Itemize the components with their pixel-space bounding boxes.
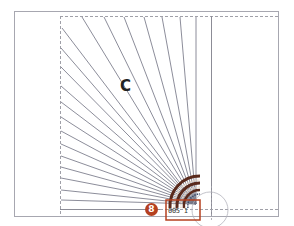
fan-diagram bbox=[0, 0, 294, 226]
outer-frame bbox=[15, 12, 279, 217]
fan-lines-top bbox=[62, 17, 196, 204]
fan-lines-left bbox=[61, 48, 196, 204]
callout-badge: 8 bbox=[145, 203, 158, 216]
region-label: C bbox=[120, 77, 131, 95]
dimension-text: 005 1 bbox=[168, 207, 188, 215]
